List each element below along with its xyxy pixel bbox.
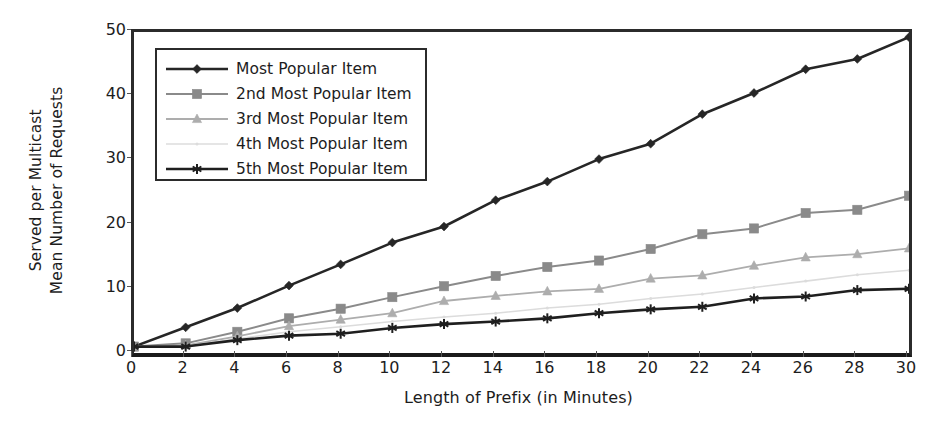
legend-diamond-swatch: [164, 61, 230, 77]
x-tick-mark: [286, 351, 287, 357]
x-tick-label: 14: [482, 358, 502, 377]
square-marker: [439, 282, 448, 291]
diamond-marker: [853, 55, 862, 64]
legend-label: Most Popular Item: [230, 60, 377, 78]
x-tick-label: 12: [431, 358, 451, 377]
diamond-marker: [181, 323, 190, 332]
dot-marker: [196, 142, 199, 145]
square-marker: [646, 244, 655, 253]
square-marker: [543, 262, 552, 271]
diamond-marker: [285, 281, 294, 290]
dot-marker: [391, 320, 394, 323]
diamond-marker: [233, 304, 242, 313]
legend-label: 5th Most Popular Item: [230, 160, 408, 178]
legend-dot-swatch: [164, 136, 230, 152]
x-tick-mark: [131, 351, 132, 357]
x-tick-label: 4: [229, 358, 239, 377]
dot-marker: [701, 292, 704, 295]
diamond-marker: [388, 238, 397, 247]
diamond-marker: [543, 177, 552, 186]
square-marker: [904, 191, 909, 200]
x-tick-label: 16: [534, 358, 554, 377]
dot-marker: [494, 312, 497, 315]
y-tick-label: 30: [92, 148, 126, 167]
dot-marker: [546, 307, 549, 310]
y-tick-label: 50: [92, 20, 126, 39]
square-marker: [801, 208, 810, 217]
dot-marker: [753, 286, 756, 289]
diamond-marker: [440, 222, 449, 231]
x-tick-mark: [544, 351, 545, 357]
legend-square-swatch: [164, 86, 230, 102]
square-marker: [192, 89, 201, 98]
chart-legend: Most Popular Item2nd Most Popular Item3r…: [155, 48, 427, 181]
legend-item-5[interactable]: 5th Most Popular Item: [157, 156, 425, 181]
x-axis-title: Length of Prefix (in Minutes): [131, 388, 906, 407]
square-marker: [749, 224, 758, 233]
x-tick-label: 6: [281, 358, 291, 377]
square-marker: [853, 205, 862, 214]
square-marker: [594, 256, 603, 265]
x-tick-mark: [751, 351, 752, 357]
diamond-marker: [193, 64, 202, 73]
diamond-marker: [750, 89, 759, 98]
x-tick-mark: [854, 351, 855, 357]
dot-marker: [443, 316, 446, 319]
diamond-marker: [905, 33, 909, 42]
dot-marker: [649, 297, 652, 300]
x-tick-label: 18: [586, 358, 606, 377]
x-tick-mark: [183, 351, 184, 357]
dot-marker: [856, 273, 859, 276]
dot-marker: [598, 303, 601, 306]
x-tick-mark: [441, 351, 442, 357]
dot-marker: [804, 280, 807, 283]
x-tick-mark: [699, 351, 700, 357]
x-tick-label: 26: [792, 358, 812, 377]
x-tick-mark: [493, 351, 494, 357]
legend-triangle-swatch: [164, 111, 230, 127]
square-marker: [698, 230, 707, 239]
x-tick-label: 22: [689, 358, 709, 377]
y-tick-label: 20: [92, 212, 126, 231]
chart-figure: Mean Number of Requests Served per Multi…: [0, 0, 951, 428]
legend-item-3[interactable]: 3rd Most Popular Item: [157, 106, 425, 131]
dot-marker: [908, 269, 910, 272]
legend-label: 4th Most Popular Item: [230, 135, 408, 153]
legend-label: 3rd Most Popular Item: [230, 110, 408, 128]
square-marker: [388, 293, 397, 302]
x-tick-mark: [234, 351, 235, 357]
y-tick-label: 10: [92, 276, 126, 295]
x-tick-label: 8: [333, 358, 343, 377]
diamond-marker: [595, 155, 604, 164]
legend-item-1[interactable]: Most Popular Item: [157, 56, 425, 81]
x-tick-mark: [389, 351, 390, 357]
x-tick-label: 10: [379, 358, 399, 377]
diamond-marker: [491, 196, 500, 205]
triangle-marker: [904, 243, 909, 252]
x-tick-mark: [803, 351, 804, 357]
x-tick-label: 24: [741, 358, 761, 377]
y-axis-title-line-2: Served per Multicast: [28, 109, 47, 271]
legend-item-4[interactable]: 4th Most Popular Item: [157, 131, 425, 156]
x-tick-mark: [596, 351, 597, 357]
x-tick-mark: [338, 351, 339, 357]
series-4: [134, 269, 909, 348]
x-tick-label: 2: [178, 358, 188, 377]
x-axis-tick-labels: 024681012141618202224262830: [131, 358, 906, 382]
x-tick-label: 0: [126, 358, 136, 377]
x-tick-label: 30: [896, 358, 916, 377]
x-tick-mark: [648, 351, 649, 357]
legend-star-swatch: [164, 161, 230, 177]
diamond-marker: [336, 260, 345, 269]
series-2: [134, 191, 909, 351]
y-axis-title-line-1: Mean Number of Requests: [49, 86, 68, 294]
x-tick-mark: [906, 351, 907, 357]
y-axis-title: Mean Number of Requests Served per Multi…: [0, 0, 96, 380]
y-axis-tick-labels: 01020304050: [92, 0, 126, 428]
x-tick-label: 28: [844, 358, 864, 377]
dot-marker: [339, 325, 342, 328]
legend-item-2[interactable]: 2nd Most Popular Item: [157, 81, 425, 106]
legend-label: 2nd Most Popular Item: [230, 85, 412, 103]
square-marker: [491, 271, 500, 280]
square-marker: [336, 304, 345, 313]
